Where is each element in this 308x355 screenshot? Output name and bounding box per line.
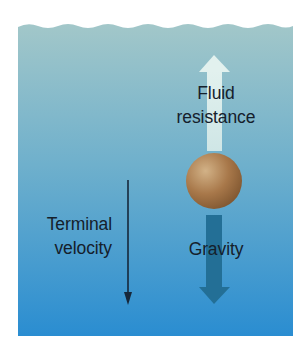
fluid-resistance-label-line2: resistance	[166, 105, 266, 129]
water-body	[18, 24, 293, 336]
terminal-velocity-label: Terminal velocity	[20, 212, 112, 260]
terminal-velocity-label-line2: velocity	[20, 236, 112, 260]
diagram: Fluid resistance Terminal velocity Gravi…	[0, 0, 308, 355]
fluid-resistance-label: Fluid resistance	[166, 81, 266, 129]
falling-sphere	[186, 153, 242, 209]
diagram-canvas	[0, 0, 308, 355]
terminal-velocity-label-line1: Terminal	[20, 212, 112, 236]
fluid-resistance-label-line1: Fluid	[166, 81, 266, 105]
gravity-label: Gravity	[181, 237, 251, 261]
